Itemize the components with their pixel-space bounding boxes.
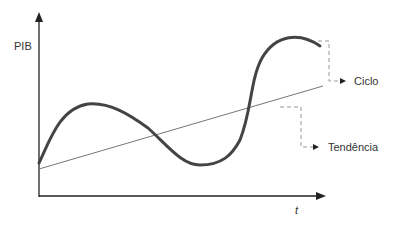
x-axis-arrow-icon [316, 192, 326, 200]
tendencia-bracket [280, 107, 313, 147]
y-axis-label: PIB [14, 40, 32, 52]
ciclo-label: Ciclo [354, 75, 378, 87]
ciclo-arrow-icon [340, 78, 346, 84]
tendencia-label: Tendência [328, 141, 379, 153]
x-axis [39, 192, 326, 200]
cycle-curve [39, 37, 320, 165]
x-axis-label: t [295, 204, 299, 216]
tendencia-arrow-icon [313, 144, 319, 150]
ciclo-bracket [318, 41, 340, 81]
y-axis [35, 12, 43, 197]
diagram-canvas: Ciclo Tendência PIB t [0, 0, 396, 225]
y-axis-arrow-icon [35, 12, 43, 22]
